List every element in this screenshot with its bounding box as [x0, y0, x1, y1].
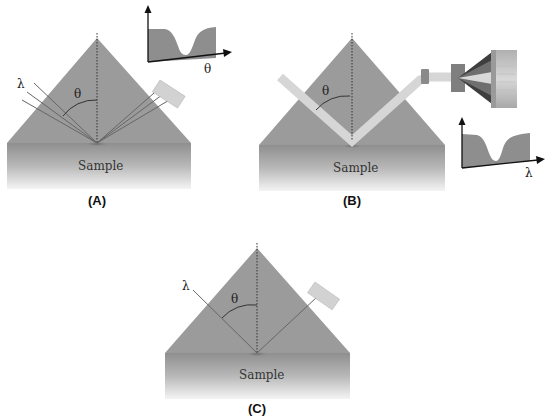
detector [308, 282, 340, 310]
sample-label: Sample [333, 161, 378, 175]
y-axis-arrow-icon [145, 5, 152, 13]
panel-a: λ θ Sample (A) θ [7, 5, 232, 208]
x-axis-arrow-icon [536, 156, 545, 164]
y-axis-arrow-icon [459, 117, 466, 125]
reflectivity-curve [462, 133, 530, 168]
panel-c: λ θ Sample (C) [165, 243, 350, 416]
panel-label-b: (B) [343, 193, 361, 208]
x-axis-arrow-icon [223, 49, 232, 57]
incident-wavelength-symbol: λ [17, 77, 25, 91]
angle-symbol: θ [322, 84, 329, 98]
sample-label: Sample [239, 368, 284, 382]
fiber-coupler [421, 69, 429, 84]
panel-b: θ Sample (B) [259, 33, 545, 208]
inset-plot-lambda: λ [459, 117, 546, 180]
panel-label-a: (A) [88, 193, 106, 208]
detector-array-edge [491, 50, 496, 108]
spr-configurations-diagram: λ θ Sample (A) θ θ Sample (B) [0, 0, 551, 418]
angle-symbol: θ [231, 292, 238, 306]
reflectivity-curve [148, 27, 216, 62]
x-axis-label: λ [525, 166, 533, 180]
panel-label-c: (C) [248, 401, 266, 416]
inset-plot-theta: θ [145, 5, 233, 76]
incident-wavelength-symbol: λ [182, 279, 190, 293]
sample-label: Sample [78, 159, 123, 173]
angle-symbol: θ [74, 87, 81, 101]
x-axis-label: θ [204, 62, 211, 76]
detector [152, 80, 185, 108]
